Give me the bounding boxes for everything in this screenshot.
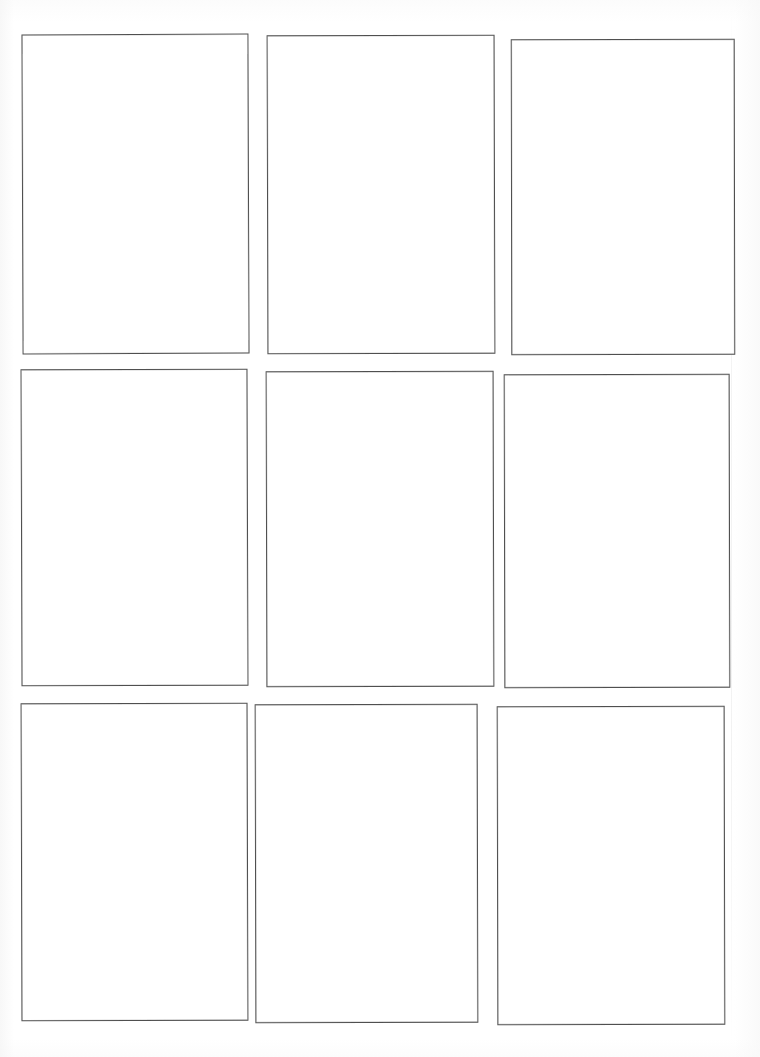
grid-cell-r1c3[interactable] — [511, 39, 736, 355]
grid-cell-r1c1[interactable] — [21, 34, 249, 355]
grid-cell-r2c1[interactable] — [21, 369, 249, 687]
grid-cell-r1c2-content — [268, 36, 495, 354]
grid-cell-r2c3[interactable] — [504, 374, 731, 688]
scanned-sheet — [0, 0, 760, 1057]
grid-cell-r1c3-content — [512, 40, 735, 354]
grid-cell-r2c2[interactable] — [266, 371, 495, 688]
grid-cell-r2c3-content — [505, 375, 730, 687]
grid-cell-r2c1-content — [22, 370, 248, 686]
grid-cell-r1c2[interactable] — [267, 35, 496, 355]
grid-cell-r3c3-content — [498, 707, 725, 1024]
grid-cell-r1c1-content — [22, 35, 248, 354]
grid-cell-r3c1-content — [22, 704, 248, 1021]
grid-cell-r3c3[interactable] — [497, 706, 726, 1025]
grid-cell-r3c1[interactable] — [21, 703, 249, 1022]
grid-cell-r2c2-content — [267, 372, 494, 687]
grid-cell-r3c2-content — [256, 705, 478, 1023]
grid-cell-r3c2[interactable] — [255, 704, 479, 1024]
